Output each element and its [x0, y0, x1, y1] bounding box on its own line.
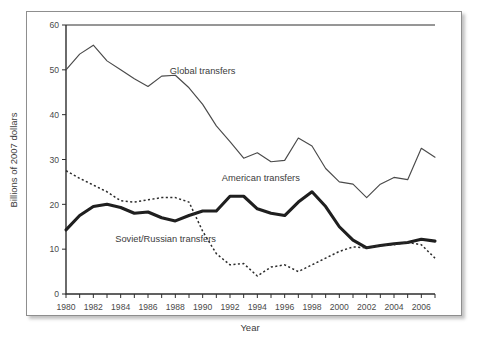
x-tick-label: 1988 [166, 302, 185, 312]
x-tick-label: 1996 [275, 302, 294, 312]
x-tick-label: 1992 [220, 302, 239, 312]
axis-spines [66, 25, 435, 294]
y-tick-label: 60 [49, 20, 59, 30]
x-tick-label: 2002 [357, 302, 376, 312]
x-tick-label: 1986 [138, 302, 157, 312]
y-tick-label: 0 [54, 289, 59, 299]
y-tick-label: 30 [49, 155, 59, 165]
y-tick-label: 40 [49, 110, 59, 120]
x-tick-label: 1990 [193, 302, 212, 312]
x-tick-label: 1994 [248, 302, 267, 312]
axes [66, 25, 435, 294]
y-axis-title: Billions of 2007 dollars [8, 112, 19, 207]
line-chart: 0102030405060 19801982198419861988199019… [0, 0, 480, 347]
x-tick-label: 2006 [412, 302, 431, 312]
y-axis-ticks: 0102030405060 [49, 20, 66, 299]
y-tick-label: 20 [49, 200, 59, 210]
x-tick-label: 2004 [384, 302, 403, 312]
annotation-soviet-russian-transfers: Soviet/Russian transfers [115, 234, 216, 244]
annotation-global-transfers: Global transfers [170, 66, 236, 76]
annotation-american-transfers: American transfers [222, 173, 300, 183]
x-tick-label: 1998 [302, 302, 321, 312]
x-tick-label: 2000 [330, 302, 349, 312]
x-axis-title: Year [240, 322, 259, 333]
y-tick-label: 10 [49, 244, 59, 254]
x-tick-label: 1980 [56, 302, 75, 312]
chart-canvas: 0102030405060 19801982198419861988199019… [0, 0, 480, 347]
x-tick-label: 1982 [84, 302, 103, 312]
chart-page: 0102030405060 19801982198419861988199019… [0, 0, 480, 347]
y-tick-label: 50 [49, 65, 59, 75]
series-annotations: Global transfersAmerican transfersSoviet… [115, 66, 300, 244]
x-tick-label: 1984 [111, 302, 130, 312]
series-line-soviet-russian-transfers [66, 171, 435, 276]
x-axis-ticks: 1980198219841986198819901992199419961998… [56, 294, 435, 312]
